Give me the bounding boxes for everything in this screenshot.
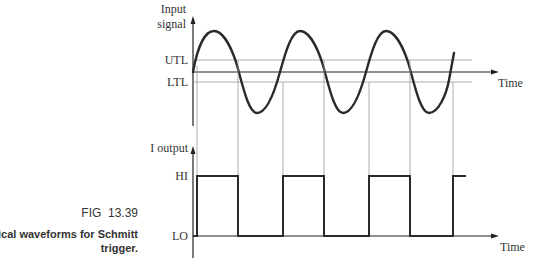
output-axis-label: I output [150,141,188,155]
lo-label: LO [172,229,188,243]
schmitt-trigger-diagram: Input signal UTL LTL Time I output HI LO [0,0,536,271]
input-time-label: Time [498,76,523,90]
ltl-label: LTL [167,75,188,89]
output-time-axis-arrow-icon [491,234,499,239]
figure-number: FIG 13.39 [81,206,138,220]
caption-line1: Typical waveforms for Schmitt [0,228,138,240]
figure-caption: FIG 13.39 Typical waveforms for Schmitt … [0,206,138,254]
input-axis-label-line2: signal [157,17,186,31]
input-axis-label-line1: Input [161,2,187,16]
hi-label: HI [175,169,188,183]
output-y-axis-arrow-icon [191,146,196,154]
output-square-waveform [193,176,466,236]
switching-guides [197,60,453,176]
input-y-axis-arrow-icon [191,16,196,24]
output-time-label: Time [500,240,525,254]
output-graph: I output HI LO Time [150,141,525,258]
input-time-axis-arrow-icon [491,70,499,75]
input-signal-graph: Input signal UTL LTL Time [157,2,523,126]
caption-line2: trigger. [101,242,138,254]
utl-label: UTL [165,53,188,67]
